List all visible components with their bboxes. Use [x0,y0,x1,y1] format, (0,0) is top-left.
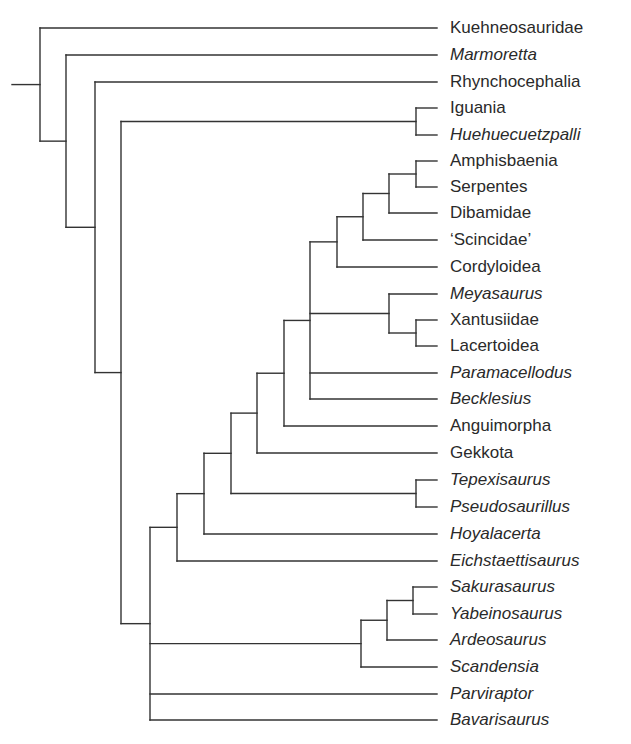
taxon-label-scincidae: ‘Scincidae’ [450,230,531,250]
taxon-label-paramacellodus: Paramacellodus [450,363,572,383]
taxon-label-yabeinosaurus: Yabeinosaurus [450,604,562,624]
taxon-label-scandensia: Scandensia [450,657,539,677]
taxon-label-dibamidae: Dibamidae [450,203,531,223]
taxon-label-eichstaettisaurus: Eichstaettisaurus [450,551,579,571]
taxon-label-cordyloidea: Cordyloidea [450,257,541,277]
taxon-label-anguimorpha: Anguimorpha [450,416,551,436]
taxon-label-becklesius: Becklesius [450,389,531,409]
taxon-label-sakurasaurus: Sakurasaurus [450,577,555,597]
taxon-label-lacertoidea: Lacertoidea [450,336,539,356]
taxon-label-amphisbaenia: Amphisbaenia [450,151,558,171]
taxon-label-hoyalacerta: Hoyalacerta [450,524,541,544]
taxon-label-xantusiidae: Xantusiidae [450,310,539,330]
taxon-label-gekkota: Gekkota [450,443,513,463]
taxon-label-kuehneosauridae: Kuehneosauridae [450,18,583,38]
taxon-label-meyasaurus: Meyasaurus [450,284,543,304]
taxon-label-serpentes: Serpentes [450,177,528,197]
taxon-label-iguania: Iguania [450,98,506,118]
taxon-label-tepexisaurus: Tepexisaurus [450,470,551,490]
taxon-label-rhynchocephalia: Rhynchocephalia [450,72,580,92]
taxon-label-bavarisaurus: Bavarisaurus [450,710,549,730]
taxon-label-marmoretta: Marmoretta [450,45,537,65]
taxon-label-pseudosaurillus: Pseudosaurillus [450,497,570,517]
taxon-label-parviraptor: Parviraptor [450,684,533,704]
taxon-label-ardeosaurus: Ardeosaurus [450,630,546,650]
taxon-label-huehuecuetzpalli: Huehuecuetzpalli [450,125,580,145]
